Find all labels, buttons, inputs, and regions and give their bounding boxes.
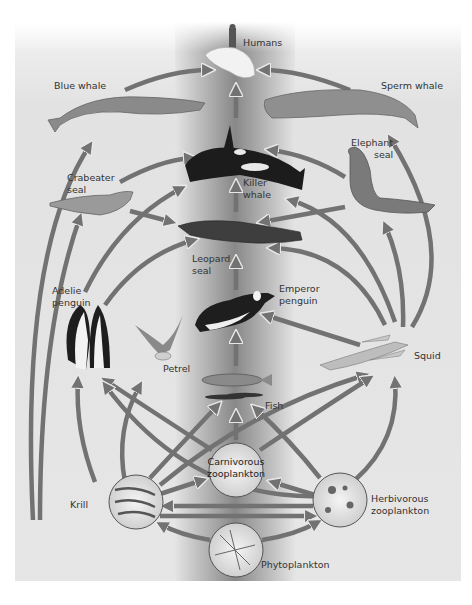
label-elephant-seal-2: seal <box>374 149 393 160</box>
label-killer-whale-1: Killer <box>243 177 267 188</box>
label-killer-whale-2: whale <box>243 189 271 200</box>
label-sperm-whale: Sperm whale <box>381 80 443 91</box>
label-leopard-seal-1: Leopard <box>192 253 230 264</box>
label-adelie-penguin-2: penguin <box>52 297 91 308</box>
food-web-diagram: Humans Blue whale Sperm whale Elephant s… <box>0 0 472 605</box>
label-emperor-penguin-2: penguin <box>279 295 318 306</box>
label-adelie-penguin-1: Adelie <box>52 285 81 296</box>
label-blue-whale: Blue whale <box>54 80 106 91</box>
label-humans: Humans <box>243 37 282 48</box>
human-figure-icon <box>229 28 236 48</box>
herbivorous-zooplankton-circle <box>313 473 367 527</box>
label-emperor-penguin-1: Emperor <box>279 283 320 294</box>
label-crabeater-seal-1: Crabeater <box>67 172 115 183</box>
label-petrel: Petrel <box>163 363 190 374</box>
label-leopard-seal-2: seal <box>192 265 211 276</box>
label-elephant-seal-1: Elephant <box>351 137 393 148</box>
label-fish: Fish <box>265 400 283 411</box>
label-squid: Squid <box>414 350 441 361</box>
label-phytoplankton: Phytoplankton <box>261 559 329 570</box>
label-carnivorous-zooplankton-1: Carnivorous <box>208 456 265 467</box>
label-herbivorous-zooplankton-1: Herbivorous <box>371 493 429 504</box>
label-krill: Krill <box>70 499 88 510</box>
label-herbivorous-zooplankton-2: zooplankton <box>371 505 429 516</box>
label-carnivorous-zooplankton-2: zooplankton <box>207 468 265 479</box>
label-crabeater-seal-2: seal <box>67 184 86 195</box>
